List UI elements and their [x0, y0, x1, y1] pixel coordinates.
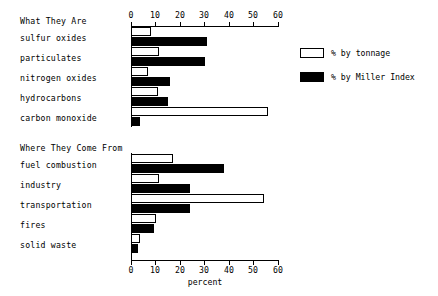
panel-title-what-they-are: What They Are [20, 17, 87, 26]
x-tick-label-bottom: 40 [224, 266, 234, 275]
category-label-fuel-combustion: fuel combustion [20, 161, 97, 170]
bar-tonnage-nitrogen-oxides [131, 67, 148, 76]
legend-label-tonnage: % by tonnage [331, 48, 390, 58]
bar-tonnage-fuel-combustion [131, 154, 173, 163]
x-tick-label-bottom: 10 [150, 266, 160, 275]
x-axis-title: percent [188, 278, 223, 287]
x-tick-label-bottom: 20 [175, 266, 185, 275]
bar-miller-fires [131, 224, 154, 233]
x-tick-label-bottom: 50 [248, 266, 258, 275]
legend-swatch-miller-index [300, 72, 324, 82]
category-label-sulfur-oxides: sulfur oxides [20, 34, 87, 43]
bottom-axis-line [131, 260, 279, 261]
bar-miller-transportation [131, 204, 190, 213]
bar-miller-hydrocarbons [131, 97, 168, 106]
x-tick-label-bottom: 60 [273, 266, 283, 275]
bar-miller-industry [131, 184, 190, 193]
x-tick-label-bottom: 0 [129, 266, 134, 275]
bar-miller-fuel-combustion [131, 164, 224, 173]
bar-tonnage-solid-waste [131, 234, 140, 243]
bar-tonnage-fires [131, 214, 156, 223]
bar-tonnage-hydrocarbons [131, 87, 158, 96]
top-axis-tick [180, 22, 181, 26]
bar-miller-particulates [131, 57, 205, 66]
top-axis-tick [155, 22, 156, 26]
legend-swatch-tonnage [300, 48, 324, 58]
category-label-carbon-monoxide: carbon monoxide [20, 114, 97, 123]
top-axis-tick [278, 22, 279, 26]
x-tick-label-top: 20 [175, 11, 185, 20]
category-label-particulates: particulates [20, 54, 82, 63]
x-tick-label-bottom: 30 [199, 266, 209, 275]
top-axis-tick [229, 22, 230, 26]
x-tick-label-top: 60 [273, 11, 283, 20]
bar-miller-carbon-monoxide [131, 117, 140, 126]
category-label-transportation: transportation [20, 201, 92, 210]
bar-miller-solid-waste [131, 244, 138, 253]
category-label-fires: fires [20, 221, 46, 230]
x-tick-label-top: 10 [150, 11, 160, 20]
pollution-bar-chart: What They Are 0 10 20 30 40 50 60 sulfur… [0, 0, 438, 296]
top-panel-left-spine [131, 26, 132, 127]
top-axis-tick [204, 22, 205, 26]
bar-tonnage-transportation [131, 194, 264, 203]
top-axis-tick [253, 22, 254, 26]
bar-tonnage-particulates [131, 47, 159, 56]
bottom-panel-left-spine [131, 153, 132, 261]
category-label-solid-waste: solid waste [20, 241, 76, 250]
bar-tonnage-industry [131, 174, 159, 183]
category-label-hydrocarbons: hydrocarbons [20, 94, 82, 103]
bar-tonnage-carbon-monoxide [131, 107, 268, 116]
category-label-nitrogen-oxides: nitrogen oxides [20, 74, 97, 83]
x-tick-label-top: 50 [248, 11, 258, 20]
bar-miller-nitrogen-oxides [131, 77, 170, 86]
panel-title-where-they-come-from: Where They Come From [20, 144, 123, 153]
x-tick-label-top: 40 [224, 11, 234, 20]
category-label-industry: industry [20, 181, 61, 190]
legend-label-miller-index: % by Miller Index [331, 72, 415, 82]
x-tick-label-top: 30 [199, 11, 209, 20]
top-axis-line [131, 26, 279, 27]
bar-tonnage-sulfur-oxides [131, 27, 151, 36]
bar-miller-sulfur-oxides [131, 37, 207, 46]
x-tick-label-top: 0 [129, 11, 134, 20]
